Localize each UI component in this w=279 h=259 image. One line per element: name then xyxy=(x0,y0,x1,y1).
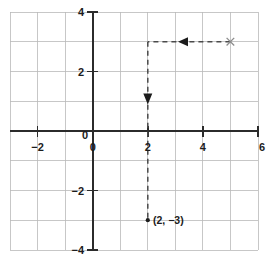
x-axis-label-2: 2 xyxy=(145,141,151,153)
y-axis-label-4: 4 xyxy=(78,6,85,18)
coordinate-plane-figure: 4 2 0 −2 −4 −2 0 2 4 6 (2, −3) xyxy=(0,0,279,259)
coordinate-grid-svg: 4 2 0 −2 −4 −2 0 2 4 6 (2, −3) xyxy=(0,0,279,259)
down-arrowhead-icon xyxy=(143,94,152,105)
y-axis-label-0: 0 xyxy=(82,129,88,141)
point-coordinate-label: (2, −3) xyxy=(153,214,184,226)
x-axis-label-0: 0 xyxy=(90,141,96,153)
y-axis-label-neg2: −2 xyxy=(71,185,84,197)
plotted-point-marker xyxy=(146,218,150,222)
y-axis-label-neg4: −4 xyxy=(71,244,84,256)
x-axis-label-4: 4 xyxy=(200,141,207,153)
y-axis-label-2: 2 xyxy=(78,66,84,78)
x-axis-label-neg2: −2 xyxy=(31,141,44,153)
left-arrowhead-icon xyxy=(178,37,188,46)
x-axis-label-6: 6 xyxy=(259,141,265,153)
